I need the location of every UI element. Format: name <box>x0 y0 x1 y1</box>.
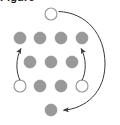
lattice-dot-filled <box>66 56 78 68</box>
lattice-dot-filled <box>55 32 67 44</box>
lattice-dot-hollow <box>14 80 26 92</box>
lattice-dot-filled <box>24 56 36 68</box>
lattice-dot-hollow <box>76 80 88 92</box>
lattice-dot-filled <box>45 56 57 68</box>
left-inner-arrow <box>17 49 21 81</box>
lattice-dot-hollow <box>45 8 57 20</box>
lattice-dot-filled <box>34 80 46 92</box>
lattice-dot-filled <box>34 32 46 44</box>
dot-lattice-diagram <box>0 0 120 125</box>
lattice-dot-filled <box>76 32 88 44</box>
right-inner-arrow <box>81 49 85 81</box>
lattice-dot-filled <box>14 32 26 44</box>
lattice-dot-filled <box>55 80 67 92</box>
outer-wrap-arrow <box>59 12 106 111</box>
lattice-dot-filled <box>45 104 57 116</box>
figure-container: Figure <box>0 0 120 125</box>
